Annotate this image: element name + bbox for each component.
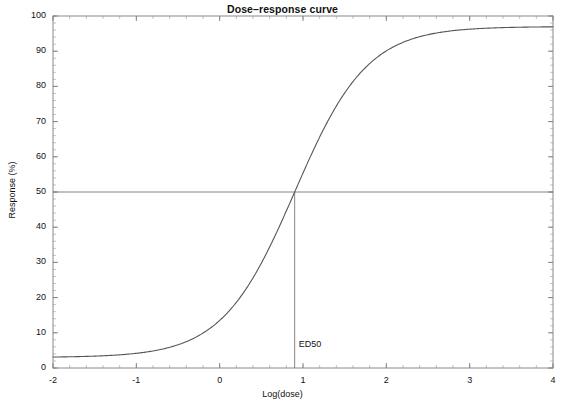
y-tick-label: 0 xyxy=(16,362,46,372)
y-tick-label: 60 xyxy=(16,151,46,161)
y-axis-title: Response (%) xyxy=(7,140,17,240)
y-tick-label: 50 xyxy=(16,186,46,196)
y-tick-label: 30 xyxy=(16,256,46,266)
y-tick-label: 80 xyxy=(16,80,46,90)
dose-response-chart: Dose–response curve 01020304050607080901… xyxy=(0,0,565,411)
plot-canvas xyxy=(0,0,565,411)
x-tick-label: 0 xyxy=(200,375,240,385)
y-tick-label: 100 xyxy=(16,10,46,20)
y-tick-label: 10 xyxy=(16,327,46,337)
x-tick-label: 1 xyxy=(283,375,323,385)
y-tick-label: 20 xyxy=(16,292,46,302)
x-tick-label: 2 xyxy=(366,375,406,385)
page-title: Dose–response curve xyxy=(0,3,565,15)
x-tick-label: 4 xyxy=(533,375,565,385)
y-tick-label: 70 xyxy=(16,116,46,126)
y-tick-label: 40 xyxy=(16,221,46,231)
y-tick-label: 90 xyxy=(16,45,46,55)
ed50-annotation-label: ED50 xyxy=(299,339,322,349)
x-axis-title: Log(dose) xyxy=(0,389,565,399)
x-tick-label: -1 xyxy=(116,375,156,385)
x-tick-label: 3 xyxy=(450,375,490,385)
x-tick-label: -2 xyxy=(33,375,73,385)
